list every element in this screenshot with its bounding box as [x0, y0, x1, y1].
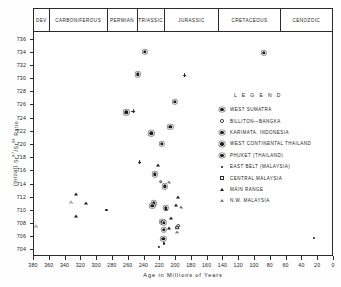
data-point — [167, 181, 171, 184]
legend-item-1: BILLITON—BANGKA — [214, 115, 338, 126]
period-label: JURASSIC — [178, 17, 204, 23]
data-point — [105, 209, 107, 211]
y-sup-87: 87 — [12, 151, 16, 156]
x-tick-mark — [286, 256, 287, 260]
y-tick-mark — [30, 131, 34, 132]
data-point — [313, 237, 315, 239]
legend-item-4: PHUKET (THAILAND) — [214, 150, 338, 161]
data-point — [160, 142, 163, 145]
legend-item-label: KARIMATA, INDONESIA — [230, 130, 289, 135]
legend-item-label: WEST CONTINENTAL THAILAND — [230, 141, 311, 146]
data-point — [179, 206, 183, 209]
data-point — [34, 224, 38, 227]
legend-item-label: CENTRAL MALAYSIA — [230, 176, 282, 181]
period-cell-cenozoic: CENOZOIC — [281, 9, 332, 31]
legend-rows: WEST SUMATRABILLITON—BANGKAKARIMATA, IND… — [214, 104, 338, 207]
y-tick-label: 736 — [0, 36, 26, 42]
legend-item-label: MAIN RANGE — [230, 187, 264, 192]
data-point — [159, 180, 163, 184]
y-tick-mark — [30, 184, 34, 185]
data-point — [69, 200, 73, 203]
legend-marker-icon — [214, 142, 230, 145]
data-point — [150, 132, 153, 135]
legend-item-label: BILLITON—BANGKA — [230, 119, 281, 124]
y-tick-label: 706 — [0, 233, 26, 239]
y-tick-label: 730 — [0, 75, 26, 81]
legend-marker-icon — [214, 131, 230, 134]
y-tick-mark — [30, 91, 34, 92]
data-point — [163, 184, 166, 187]
data-point — [162, 237, 165, 240]
data-point — [162, 221, 165, 224]
period-cell-jurassic: JURASSIC — [165, 9, 219, 31]
y-tick-mark — [30, 65, 34, 66]
data-point — [169, 216, 173, 219]
data-point — [74, 215, 78, 218]
y-tick-label: 734 — [0, 49, 26, 55]
legend-marker-icon — [214, 176, 230, 180]
period-cell-dev: DEV — [34, 9, 50, 31]
x-tick-mark — [175, 256, 176, 260]
legend-marker-icon — [214, 199, 230, 202]
y-axis-title: (Initial) Sr87/Sr86 Ratio — [12, 105, 19, 201]
period-label: PERMIAN — [110, 17, 134, 23]
legend-item-label: WEST SUMATRA — [230, 107, 272, 112]
y-tick-label: 732 — [0, 62, 26, 68]
y-axis-title-main: Sr87/Sr86 Ratio — [12, 121, 18, 163]
legend-item-6: CENTRAL MALAYSIA — [214, 172, 338, 183]
period-cell-permian: PERMIAN — [108, 9, 138, 31]
period-label: CENOZOIC — [293, 17, 321, 23]
legend-marker-icon — [214, 108, 230, 111]
x-tick-mark — [65, 256, 66, 260]
data-point — [156, 164, 160, 167]
x-axis-title: Age in Millions of Years — [33, 272, 333, 278]
data-point — [169, 125, 172, 128]
legend-marker-icon — [214, 166, 230, 168]
x-tick-mark — [80, 256, 81, 260]
legend-item-label: PHUKET (THAILAND) — [230, 153, 283, 158]
data-point — [157, 246, 159, 248]
x-tick-mark — [33, 256, 34, 260]
legend-title: L E G E N D — [234, 92, 338, 98]
data-point — [136, 72, 139, 75]
y-tick-label: 710 — [0, 207, 26, 213]
data-point — [175, 231, 179, 234]
legend-item-label: EAST BELT (MALAYSIA) — [230, 164, 290, 169]
y-axis-title-prefix: (Initial) — [12, 165, 18, 186]
y-tick-mark — [30, 118, 34, 119]
x-tick-mark — [96, 256, 97, 260]
y-tick-mark — [30, 157, 34, 158]
x-tick-mark — [301, 256, 302, 260]
x-tick-label: 0 — [323, 262, 341, 268]
y-tick-mark — [30, 144, 34, 145]
data-point — [173, 100, 176, 103]
period-label: DEV — [36, 17, 47, 23]
x-tick-mark — [238, 256, 239, 260]
x-tick-mark — [333, 256, 334, 260]
x-tick-mark — [191, 256, 192, 260]
data-point — [176, 226, 180, 230]
x-tick-mark — [159, 256, 160, 260]
data-point — [163, 242, 165, 244]
y-tick-mark — [30, 197, 34, 198]
data-point — [124, 111, 127, 114]
period-label: CRETACEOUS — [231, 17, 267, 23]
legend-marker-icon — [214, 119, 230, 123]
y-tick-mark — [30, 52, 34, 53]
x-tick-mark — [207, 256, 208, 260]
chart-root: DEVCARBONIFEROUSPERMIANTRIASSICJURASSICC… — [0, 0, 341, 287]
data-point — [164, 207, 168, 210]
legend-item-label: N.W. MALAYSIA — [230, 198, 270, 203]
data-point — [84, 202, 88, 205]
period-label: CARBONIFEROUS — [55, 17, 101, 23]
data-point — [162, 228, 165, 231]
x-tick-mark — [144, 256, 145, 260]
data-point — [138, 161, 142, 165]
legend-item-3: WEST CONTINENTAL THAILAND — [214, 138, 338, 149]
data-point — [131, 109, 135, 113]
y-tick-label: 708 — [0, 220, 26, 226]
x-tick-mark — [112, 256, 113, 260]
y-tick-label: 728 — [0, 88, 26, 94]
data-point — [167, 227, 171, 230]
x-tick-mark — [270, 256, 271, 260]
